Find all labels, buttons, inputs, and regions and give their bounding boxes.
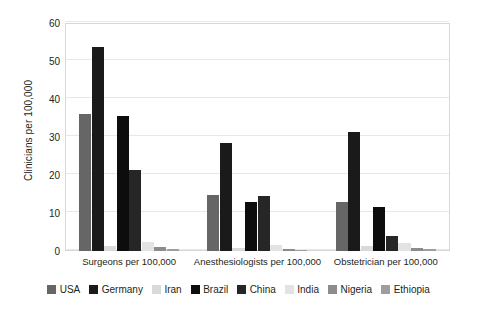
bar xyxy=(154,247,166,251)
y-axis-tick-label: 60 xyxy=(20,18,60,29)
bar xyxy=(207,195,219,251)
legend-item[interactable]: China xyxy=(237,284,276,295)
legend-item[interactable]: Germany xyxy=(89,284,143,295)
legend-item[interactable]: USA xyxy=(47,284,80,295)
legend-item[interactable]: Iran xyxy=(152,284,182,295)
legend-label: Nigeria xyxy=(340,284,372,295)
bar xyxy=(270,245,282,251)
legend-item[interactable]: Brazil xyxy=(191,284,229,295)
bar xyxy=(220,143,232,251)
legend-swatch-icon xyxy=(237,285,246,294)
bar xyxy=(79,114,91,251)
legend-label: China xyxy=(250,284,276,295)
legend-swatch-icon xyxy=(152,285,161,294)
y-axis-tick-label: 30 xyxy=(20,132,60,143)
bar xyxy=(232,248,244,251)
bar xyxy=(283,249,295,251)
legend-item[interactable]: Ethiopia xyxy=(381,284,430,295)
bar xyxy=(361,246,373,251)
bar xyxy=(258,196,270,251)
legend-label: India xyxy=(297,284,319,295)
legend-label: USA xyxy=(60,284,81,295)
bar xyxy=(117,116,129,251)
bar xyxy=(336,202,348,251)
bar xyxy=(129,170,141,251)
legend-label: Iran xyxy=(164,284,181,295)
legend-label: Ethiopia xyxy=(394,284,430,295)
legend-swatch-icon xyxy=(285,285,294,294)
y-axis-tick-label: 0 xyxy=(20,246,60,257)
bar xyxy=(398,243,410,251)
legend-swatch-icon xyxy=(381,285,390,294)
x-axis-category-label: Anesthesiologists per 100,000 xyxy=(194,256,321,267)
legend-item[interactable]: Nigeria xyxy=(328,284,372,295)
legend-swatch-icon xyxy=(47,285,56,294)
legend-label: Germany xyxy=(102,284,143,295)
bar xyxy=(142,242,154,252)
bar xyxy=(92,47,104,251)
chart-legend: USAGermanyIranBrazilChinaIndiaNigeriaEth… xyxy=(0,284,477,295)
bar xyxy=(245,202,257,251)
bar xyxy=(348,132,360,251)
bar xyxy=(104,246,116,251)
bar xyxy=(373,207,385,251)
bars-layer xyxy=(65,23,450,251)
y-axis-tick-label: 50 xyxy=(20,56,60,67)
y-axis-tick-label: 10 xyxy=(20,208,60,219)
legend-swatch-icon xyxy=(328,285,337,294)
bar-chart: Clinicians per 100,000 0102030405060 Sur… xyxy=(0,0,477,322)
bar xyxy=(411,248,423,251)
y-axis-tick-label: 40 xyxy=(20,94,60,105)
bar xyxy=(295,250,307,251)
legend-swatch-icon xyxy=(191,285,200,294)
legend-swatch-icon xyxy=(89,285,98,294)
y-axis-tick-label: 20 xyxy=(20,170,60,181)
gridline xyxy=(66,21,449,22)
legend-label: Brazil xyxy=(203,284,228,295)
legend-item[interactable]: India xyxy=(285,284,319,295)
x-axis-category-label: Surgeons per 100,000 xyxy=(82,256,176,267)
x-axis-category-label: Obstetrician per 100,000 xyxy=(334,256,438,267)
bar xyxy=(167,249,179,251)
bar xyxy=(386,236,398,251)
bar xyxy=(423,249,435,251)
